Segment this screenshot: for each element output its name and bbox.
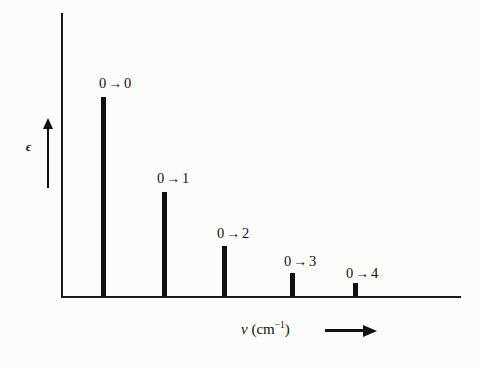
- spectral-line-1: [162, 192, 167, 296]
- transition-to-level: 0: [124, 75, 132, 91]
- transition-to-level: 3: [309, 253, 317, 269]
- x-axis-arrow-icon: [325, 325, 377, 337]
- transition-arrow-icon: →: [292, 255, 309, 269]
- arrow-shaft: [47, 127, 49, 188]
- y-axis-label: ϵ: [26, 141, 31, 153]
- transition-arrow-icon: →: [225, 227, 242, 241]
- arrow-head: [363, 325, 377, 337]
- y-axis-arrow-icon: [43, 118, 53, 188]
- transition-to-level: 4: [371, 265, 379, 281]
- x-axis-line: [61, 296, 461, 298]
- transition-to-level: 2: [242, 225, 250, 241]
- transition-arrow-icon: →: [107, 77, 124, 91]
- transition-from-level: 0: [157, 170, 165, 186]
- transition-from-level: 0: [284, 253, 292, 269]
- peak-label-0: 0→0: [99, 76, 132, 91]
- transition-arrow-icon: →: [165, 172, 182, 186]
- x-axis-label-unit-open: (cm: [248, 321, 275, 337]
- arrow-shaft: [325, 329, 365, 332]
- peak-label-2: 0→2: [217, 226, 250, 241]
- transition-from-level: 0: [346, 265, 354, 281]
- peak-label-4: 0→4: [346, 266, 379, 281]
- transition-from-level: 0: [217, 225, 225, 241]
- spectral-line-4: [353, 283, 358, 296]
- x-axis-label-symbol: ν: [241, 321, 248, 337]
- peak-label-3: 0→3: [284, 254, 317, 269]
- transition-arrow-icon: →: [354, 267, 371, 281]
- spectrum-figure: ϵ 0→00→10→20→30→4 ν (cm−1): [0, 0, 480, 368]
- transition-from-level: 0: [99, 75, 107, 91]
- spectral-line-2: [222, 246, 227, 296]
- y-axis-line: [61, 13, 63, 298]
- peak-label-1: 0→1: [157, 171, 190, 186]
- x-axis-label: ν (cm−1): [241, 322, 290, 337]
- x-axis-label-unit-close: ): [285, 321, 290, 337]
- x-axis-label-exponent: −1: [275, 320, 285, 330]
- transition-to-level: 1: [182, 170, 190, 186]
- spectral-line-3: [290, 273, 295, 296]
- spectral-line-0: [101, 97, 106, 296]
